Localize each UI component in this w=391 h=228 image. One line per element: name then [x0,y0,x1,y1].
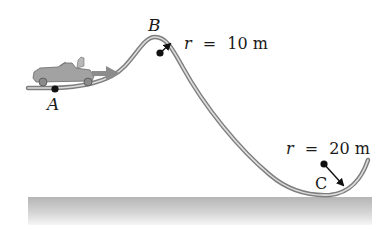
svg-text:r = 20 m: r = 20 m [286,139,370,158]
svg-text:r = 10 m: r = 10 m [184,34,268,53]
radius-eq-c: = [305,139,318,158]
radius-value-c: 20 m [329,139,370,158]
roller-coaster-diagram: A B r = 10 m C r = 20 m [0,0,391,228]
radius-label-b: r = 10 m [184,34,268,53]
point-b-label: B [147,15,161,35]
radius-var-b: r [184,34,193,53]
radius-eq-b: = [203,34,216,53]
diagram-canvas: A B r = 10 m C r = 20 m [0,0,391,228]
point-a-label: A [45,94,59,114]
go-kart-icon [33,57,94,86]
radius-arrow-b-icon [160,44,170,53]
radius-var-c: r [286,139,295,158]
radius-value-b: 10 m [227,34,268,53]
point-a-dot [51,85,58,92]
velocity-arrow-icon [92,66,120,81]
ground [28,197,372,225]
point-c-label: C [315,174,327,193]
radius-label-c: r = 20 m [286,139,370,158]
